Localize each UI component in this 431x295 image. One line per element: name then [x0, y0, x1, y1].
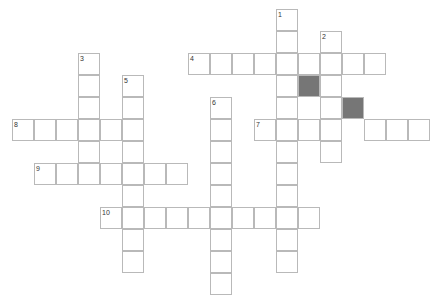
crossword-cell[interactable]: [12, 119, 34, 141]
crossword-cell[interactable]: [276, 75, 298, 97]
crossword-cell[interactable]: [364, 53, 386, 75]
crossword-cell[interactable]: [276, 251, 298, 273]
crossword-cell[interactable]: [342, 53, 364, 75]
crossword-cell[interactable]: [100, 207, 122, 229]
crossword-cell[interactable]: [276, 119, 298, 141]
crossword-cell[interactable]: [122, 229, 144, 251]
crossword-cell[interactable]: [78, 141, 100, 163]
crossword-cell[interactable]: [276, 97, 298, 119]
crossword-cell[interactable]: [100, 163, 122, 185]
crossword-block-cell: [342, 97, 364, 119]
crossword-cell[interactable]: [78, 97, 100, 119]
crossword-cell[interactable]: [408, 119, 430, 141]
crossword-cell[interactable]: [78, 75, 100, 97]
crossword-cell[interactable]: [144, 207, 166, 229]
crossword-cell[interactable]: [320, 31, 342, 53]
crossword-cell[interactable]: [78, 53, 100, 75]
crossword-cell[interactable]: [188, 53, 210, 75]
crossword-cell[interactable]: [56, 119, 78, 141]
crossword-cell[interactable]: [122, 141, 144, 163]
crossword-cell[interactable]: [298, 119, 320, 141]
crossword-cell[interactable]: [210, 53, 232, 75]
crossword-cell[interactable]: [34, 119, 56, 141]
crossword-cell[interactable]: [188, 207, 210, 229]
crossword-cell[interactable]: [364, 119, 386, 141]
crossword-cell[interactable]: [210, 207, 232, 229]
crossword-cell[interactable]: [276, 53, 298, 75]
crossword-block-cell: [298, 75, 320, 97]
crossword-cell[interactable]: [276, 229, 298, 251]
crossword-cell[interactable]: [78, 163, 100, 185]
crossword-cell[interactable]: [298, 53, 320, 75]
crossword-cell[interactable]: [254, 119, 276, 141]
crossword-cell[interactable]: [276, 185, 298, 207]
crossword-cell[interactable]: [122, 163, 144, 185]
crossword-cell[interactable]: [276, 141, 298, 163]
crossword-cell[interactable]: [166, 163, 188, 185]
crossword-cell[interactable]: [122, 251, 144, 273]
crossword-cell[interactable]: [276, 9, 298, 31]
crossword-cell[interactable]: [232, 53, 254, 75]
crossword-cell[interactable]: [122, 185, 144, 207]
crossword-cell[interactable]: [254, 207, 276, 229]
crossword-cell[interactable]: [210, 163, 232, 185]
crossword-cell[interactable]: [210, 119, 232, 141]
crossword-cell[interactable]: [210, 141, 232, 163]
crossword-cell[interactable]: [386, 119, 408, 141]
crossword-cell[interactable]: [254, 53, 276, 75]
crossword-cell[interactable]: [56, 163, 78, 185]
crossword-cell[interactable]: [320, 119, 342, 141]
crossword-cell[interactable]: [122, 119, 144, 141]
crossword-cell[interactable]: [320, 53, 342, 75]
crossword-cell[interactable]: [276, 207, 298, 229]
crossword-cell[interactable]: [320, 75, 342, 97]
crossword-cell[interactable]: [144, 163, 166, 185]
crossword-cell[interactable]: [34, 163, 56, 185]
crossword-cell[interactable]: [100, 119, 122, 141]
crossword-cell[interactable]: [210, 97, 232, 119]
crossword-cell[interactable]: [78, 119, 100, 141]
crossword-cell[interactable]: [210, 229, 232, 251]
crossword-cell[interactable]: [210, 185, 232, 207]
crossword-cell[interactable]: [320, 141, 342, 163]
crossword-cell[interactable]: [210, 273, 232, 295]
crossword-cell[interactable]: [122, 97, 144, 119]
crossword-cell[interactable]: [122, 75, 144, 97]
crossword-cell[interactable]: [122, 207, 144, 229]
crossword-cell[interactable]: [276, 163, 298, 185]
crossword-cell[interactable]: [298, 207, 320, 229]
crossword-cell[interactable]: [276, 31, 298, 53]
crossword-cell[interactable]: [210, 251, 232, 273]
crossword-cell[interactable]: [320, 97, 342, 119]
crossword-cell[interactable]: [166, 207, 188, 229]
crossword-cell[interactable]: [232, 207, 254, 229]
